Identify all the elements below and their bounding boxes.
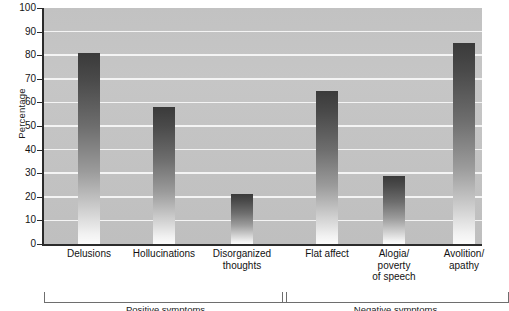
gridline (44, 149, 482, 151)
y-axis-tick-mark (37, 244, 42, 245)
x-axis-category-label: Delusions (46, 248, 132, 260)
y-axis-tick-mark (37, 32, 42, 33)
y-axis-tick-label: 100 (6, 3, 36, 13)
bar (316, 91, 338, 244)
x-axis-category-labels: DelusionsHollucinationsDisorganizedthoug… (44, 248, 482, 292)
gridline (44, 220, 482, 222)
x-axis-category-label: Hollucinations (121, 248, 207, 260)
x-axis-category-label: Avolition/apathy (421, 248, 507, 271)
y-axis-tick-label: 10 (6, 215, 36, 225)
y-axis-tick-label: 40 (6, 145, 36, 155)
y-axis-tick-mark (37, 102, 42, 103)
gridline (44, 54, 482, 56)
gridline (44, 31, 482, 33)
plot-area (44, 8, 482, 244)
y-axis-tick-mark (37, 79, 42, 80)
y-axis-tick-mark (37, 126, 42, 127)
group-bracket-positive (44, 292, 287, 303)
y-axis-tick-labels: 0102030405060708090100 (6, 8, 36, 244)
x-axis-label-line: of speech (351, 271, 437, 283)
bar (153, 107, 175, 244)
bar (383, 176, 405, 244)
x-axis-label-line: apathy (421, 260, 507, 272)
x-axis-category-label: Disorganizedthoughts (199, 248, 285, 271)
x-axis-label-line: Avolition/ (421, 248, 507, 260)
y-axis-tick-mark (37, 220, 42, 221)
group-caption-positive: Positive symptoms (44, 304, 287, 311)
y-axis-tick-label: 20 (6, 192, 36, 202)
group-caption-negative: Negative symptoms (282, 304, 509, 311)
y-axis-tick-label: 70 (6, 74, 36, 84)
gridline (44, 172, 482, 174)
y-axis-tick-label: 50 (6, 121, 36, 131)
gridline (44, 196, 482, 198)
gridline (44, 102, 482, 104)
y-axis-tick-label: 0 (6, 239, 36, 249)
x-axis-label-line: Delusions (46, 248, 132, 260)
group-bracket-negative (282, 292, 509, 303)
x-axis-label-line: thoughts (199, 260, 285, 272)
y-axis-tick-mark (37, 173, 42, 174)
y-axis-tick-mark (37, 150, 42, 151)
bar (78, 53, 100, 244)
y-axis-tick-label: 60 (6, 97, 36, 107)
y-axis-tick-mark (37, 55, 42, 56)
y-axis-tick-label: 80 (6, 50, 36, 60)
bar (453, 43, 475, 244)
gridline (44, 125, 482, 127)
y-axis-tick-mark (37, 197, 42, 198)
x-axis-line (42, 244, 482, 246)
gridline (44, 78, 482, 80)
x-axis-label-line: Disorganized (199, 248, 285, 260)
x-axis-label-line: Hollucinations (121, 248, 207, 260)
bar (231, 194, 253, 244)
y-axis-tick-label: 30 (6, 168, 36, 178)
y-axis-tick-label: 90 (6, 27, 36, 37)
y-axis-tick-mark (37, 8, 42, 9)
